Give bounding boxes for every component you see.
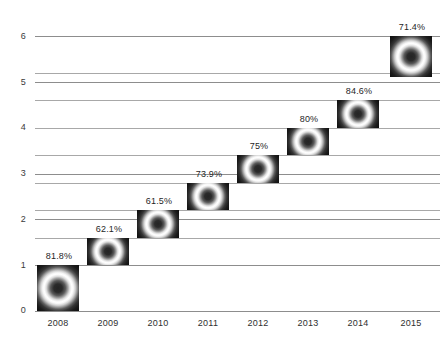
data-point-tile-2009[interactable] bbox=[87, 238, 129, 266]
data-label-2009: 62.1% bbox=[78, 224, 140, 234]
data-point-tile-2014[interactable] bbox=[337, 100, 379, 128]
data-point-tile-2011[interactable] bbox=[187, 183, 229, 211]
x-axis-tick-2014: 2014 bbox=[328, 318, 388, 328]
data-label-2011: 73.9% bbox=[178, 169, 240, 179]
gridline-2 bbox=[35, 219, 440, 220]
psf-thumbnail-2009 bbox=[87, 238, 129, 266]
data-label-2014: 84.6% bbox=[328, 86, 390, 96]
gridline-step-4-0 bbox=[35, 128, 440, 129]
psf-thumbnail-2012 bbox=[237, 155, 279, 183]
gridline-step-4-6 bbox=[35, 100, 440, 101]
gridline-0 bbox=[35, 311, 440, 312]
y-axis-tick-6: 6 bbox=[0, 31, 26, 41]
data-point-tile-2012[interactable] bbox=[237, 155, 279, 183]
data-label-2013: 80% bbox=[278, 114, 340, 124]
x-axis-tick-2015: 2015 bbox=[381, 318, 441, 328]
data-label-2012: 75% bbox=[228, 141, 290, 151]
data-label-2010: 61.5% bbox=[128, 196, 190, 206]
psf-thumbnail-2008 bbox=[37, 265, 79, 311]
gridline-step-5-2 bbox=[35, 73, 440, 74]
gridline-1 bbox=[35, 265, 440, 266]
psf-thumbnail-2010 bbox=[137, 210, 179, 238]
data-label-2008: 81.8% bbox=[28, 251, 90, 261]
y-axis-tick-5: 5 bbox=[0, 77, 26, 87]
y-axis-tick-4: 4 bbox=[0, 122, 26, 132]
psf-thumbnail-2011 bbox=[187, 183, 229, 211]
gridline-step-2-8 bbox=[35, 183, 440, 184]
chart-figure: 6 5 4 3 2 1 0 bbox=[0, 0, 447, 341]
plot-area: 81.8% 62.1% 61.5% 73.9% 75% 80% 84.6% 71… bbox=[35, 36, 440, 311]
gridline-5 bbox=[35, 82, 440, 83]
data-label-2015: 71.4% bbox=[381, 22, 443, 32]
data-point-tile-2008[interactable] bbox=[37, 265, 79, 311]
gridline-step-2-2 bbox=[35, 210, 440, 211]
psf-thumbnail-2014 bbox=[337, 100, 379, 128]
data-point-tile-2015[interactable] bbox=[390, 36, 432, 77]
psf-thumbnail-2013 bbox=[287, 128, 329, 156]
y-axis-tick-3: 3 bbox=[0, 168, 26, 178]
data-point-tile-2013[interactable] bbox=[287, 128, 329, 156]
y-axis-tick-1: 1 bbox=[0, 260, 26, 270]
data-point-tile-2010[interactable] bbox=[137, 210, 179, 238]
y-axis-tick-0: 0 bbox=[0, 305, 26, 315]
y-axis-tick-2: 2 bbox=[0, 214, 26, 224]
psf-thumbnail-2015 bbox=[390, 36, 432, 77]
gridline-6 bbox=[35, 36, 440, 37]
